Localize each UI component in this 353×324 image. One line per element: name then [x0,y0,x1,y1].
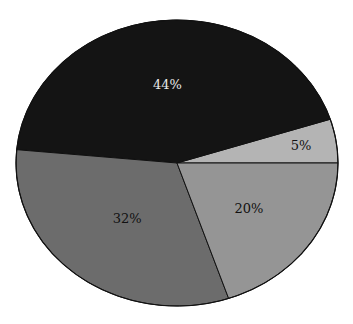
pie-slices [16,20,338,306]
slice-label: 20% [235,201,264,216]
slice-label: 5% [291,138,312,153]
slice-label: 44% [153,77,182,92]
slice-label: 32% [113,211,142,226]
pie-chart: 5%44%32%20% [0,0,353,324]
